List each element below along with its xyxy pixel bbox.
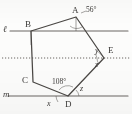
vertex-label-b: B xyxy=(25,20,31,29)
angle-label-z-at-e: z xyxy=(95,61,98,69)
geometry-figure: A B C D E ℓ m 56° y z 108° z x xyxy=(0,0,132,114)
angle-label-z-at-d: z xyxy=(80,85,83,93)
arc-angle-z-d xyxy=(76,90,79,96)
line-label-m: m xyxy=(3,90,10,99)
pentagon-abcde xyxy=(31,17,104,96)
vertex-label-a: A xyxy=(72,6,79,15)
angle-label-108: 108° xyxy=(52,78,66,86)
arc-angle-d-interior xyxy=(59,86,73,90)
vertex-label-d: D xyxy=(65,100,72,109)
angle-label-y: y xyxy=(95,47,99,55)
angle-label-x: x xyxy=(47,100,51,108)
diagram-canvas xyxy=(0,0,132,114)
angle-label-56: 56° xyxy=(86,6,97,14)
arc-angle-x xyxy=(56,96,58,102)
line-label-l: ℓ xyxy=(3,25,7,34)
vertex-label-c: C xyxy=(22,76,28,85)
vertex-label-e: E xyxy=(108,46,114,55)
